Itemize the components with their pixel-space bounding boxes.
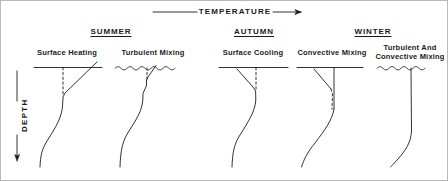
panel-label-convective-mixing: Convective Mixing [297,49,366,58]
panel-4-temperature-profile [302,109,335,167]
panel-5-temperature-profile [391,68,412,167]
panel-4-cooling-segment [314,69,331,89]
panel-label-surface-heating: Surface Heating [37,49,97,58]
panel-4-reference-line [331,89,333,109]
panel-3-temperature-profile [232,69,256,167]
panel-5-surface-line [377,67,425,70]
panel-1-temperature-profile [40,62,97,167]
panel-2-surface-line [115,67,175,70]
panel-label-surface-cooling: Surface Cooling [223,49,284,58]
season-header-autumn: AUTUMN [234,27,274,36]
season-header-winter: WINTER [355,27,392,36]
season-header-summer: SUMMER [91,27,132,36]
temperature-depth-profile-figure: TEMPERATURE DEPTH SUMMER AUTUMN WINTER S… [0,0,448,181]
panel-label-turbulent-mixing: Turbulent Mixing [121,49,184,58]
depth-axis-label: DEPTH [20,98,29,132]
panel-2-temperature-profile [120,66,156,168]
temperature-axis-label: TEMPERATURE [199,7,271,16]
panel-label-turbulent-and-convective-mixing-line2: Convective Mixing [375,53,444,62]
